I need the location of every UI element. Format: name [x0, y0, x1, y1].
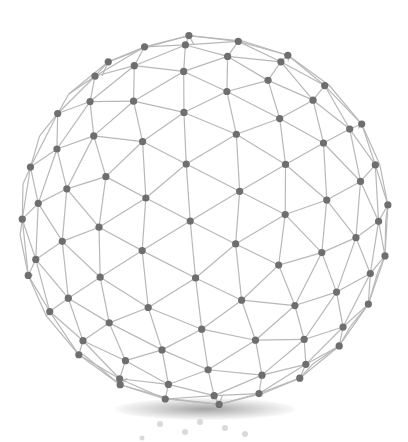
- illustration: [0, 0, 408, 442]
- geodesic-sphere-icon: [0, 0, 408, 442]
